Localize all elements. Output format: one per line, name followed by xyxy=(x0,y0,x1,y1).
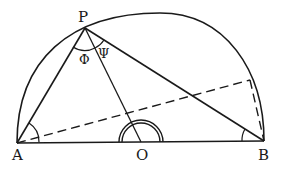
geometry-diagram: P A O B Φ Ψ xyxy=(0,0,283,170)
label-phi: Φ xyxy=(79,52,90,67)
angle-arc-b xyxy=(242,129,245,141)
label-psi: Ψ xyxy=(98,46,109,61)
angle-arc-phi xyxy=(73,47,95,50)
dashed-chord-aq xyxy=(17,80,250,143)
label-b: B xyxy=(258,146,269,164)
label-o: O xyxy=(136,146,148,164)
straight-angle-arc-inner xyxy=(122,123,160,142)
label-p: P xyxy=(78,8,88,26)
chord-pb xyxy=(85,28,264,141)
label-a: A xyxy=(11,146,23,164)
